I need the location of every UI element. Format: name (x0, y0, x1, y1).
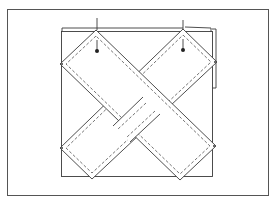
diagram-canvas (0, 0, 279, 205)
